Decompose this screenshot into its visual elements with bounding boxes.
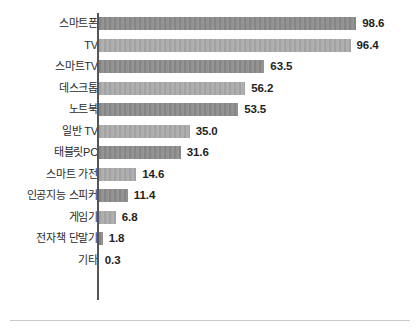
bar	[98, 60, 264, 73]
category-label: 일반 TV	[62, 121, 98, 143]
bar	[98, 168, 136, 181]
chart-row: 전자책 단말기1.8	[0, 228, 419, 250]
bar-track: 6.8	[98, 207, 419, 229]
bar-value-label: 0.3	[105, 250, 121, 272]
bar	[98, 82, 245, 95]
bottom-divider	[10, 320, 410, 321]
chart-row: 스마트폰98.6	[0, 13, 419, 35]
bar-value-label: 53.5	[244, 99, 266, 121]
bar	[98, 189, 128, 202]
bar-value-label: 63.5	[270, 56, 292, 78]
bar-track: 0.3	[98, 250, 419, 272]
bar-track: 1.8	[98, 228, 419, 250]
bar-track: 96.4	[98, 35, 419, 57]
bar-value-label: 14.6	[142, 164, 164, 186]
category-label: 태블릿PC	[54, 142, 98, 164]
chart-row: 기타0.3	[0, 250, 419, 272]
category-label: 스마트 가전	[46, 164, 98, 186]
bar-value-label: 98.6	[362, 13, 384, 35]
category-label: 데스크톱	[59, 78, 98, 100]
bar-value-label: 11.4	[134, 185, 155, 207]
bar-track: 14.6	[98, 164, 419, 186]
category-label: 게임기	[69, 207, 98, 229]
bar-track: 35.0	[98, 121, 419, 143]
chart-row: 노트북53.5	[0, 99, 419, 121]
bar	[98, 146, 181, 159]
bar	[98, 17, 356, 30]
category-label: 전자책 단말기	[36, 228, 98, 250]
category-label: 기타	[78, 250, 98, 272]
bar-track: 98.6	[98, 13, 419, 35]
category-axis-line	[97, 13, 99, 300]
chart-row: 일반 TV35.0	[0, 121, 419, 143]
bar	[98, 39, 351, 52]
chart-row: 태블릿PC31.6	[0, 142, 419, 164]
bar-value-label: 56.2	[251, 78, 273, 100]
bar-value-label: 96.4	[357, 35, 379, 57]
bar	[98, 125, 190, 138]
bar-value-label: 1.8	[109, 228, 125, 250]
category-label: 스마트폰	[59, 13, 98, 35]
category-label: 스마트TV	[55, 56, 98, 78]
chart-row: 인공지능 스피커11.4	[0, 185, 419, 207]
chart-row: 스마트 가전14.6	[0, 164, 419, 186]
chart-row: TV96.4	[0, 35, 419, 57]
bar-value-label: 31.6	[187, 142, 209, 164]
bar-track: 53.5	[98, 99, 419, 121]
plot-area: 스마트폰98.6TV96.4스마트TV63.5데스크톱56.2노트북53.5일반…	[0, 13, 419, 300]
bar-chart: 스마트폰98.6TV96.4스마트TV63.5데스크톱56.2노트북53.5일반…	[0, 0, 419, 329]
bar-track: 63.5	[98, 56, 419, 78]
bar-value-label: 35.0	[196, 121, 218, 143]
bar-track: 11.4	[98, 185, 419, 207]
bar-value-label: 6.8	[122, 207, 138, 229]
category-label: 인공지능 스피커	[27, 185, 98, 207]
chart-row: 게임기6.8	[0, 207, 419, 229]
chart-row: 스마트TV63.5	[0, 56, 419, 78]
category-label: TV	[84, 35, 98, 57]
bar-track: 56.2	[98, 78, 419, 100]
bar-track: 31.6	[98, 142, 419, 164]
bar	[98, 211, 116, 224]
chart-row: 데스크톱56.2	[0, 78, 419, 100]
bar	[98, 103, 238, 116]
category-label: 노트북	[69, 99, 98, 121]
